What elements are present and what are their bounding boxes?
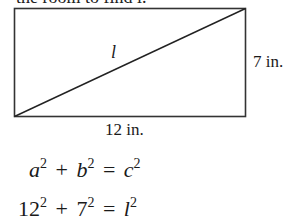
exponent: 2	[40, 195, 47, 210]
term-7: 7	[76, 196, 87, 219]
plus-operator: +	[53, 157, 71, 182]
exponent: 2	[134, 156, 141, 171]
rectangle-diagram	[0, 0, 302, 219]
exponent: 2	[40, 156, 47, 171]
equals-operator: =	[100, 157, 118, 182]
term-b: b	[76, 157, 87, 182]
term-12: 12	[18, 196, 40, 219]
height-label: 7 in.	[253, 53, 283, 70]
plus-operator: +	[53, 196, 71, 219]
term-c: c	[124, 157, 134, 182]
exponent: 2	[87, 156, 94, 171]
diagonal-label: l	[111, 43, 116, 61]
term-a: a	[29, 157, 40, 182]
width-label: 12 in.	[105, 121, 144, 138]
substituted-equation: 122 + 72 = l2	[18, 196, 137, 219]
exponent: 2	[87, 195, 94, 210]
equals-operator: =	[100, 196, 118, 219]
exponent: 2	[130, 195, 137, 210]
pythagorean-formula: a2 + b2 = c2	[29, 157, 141, 181]
diagonal-line	[15, 9, 246, 117]
